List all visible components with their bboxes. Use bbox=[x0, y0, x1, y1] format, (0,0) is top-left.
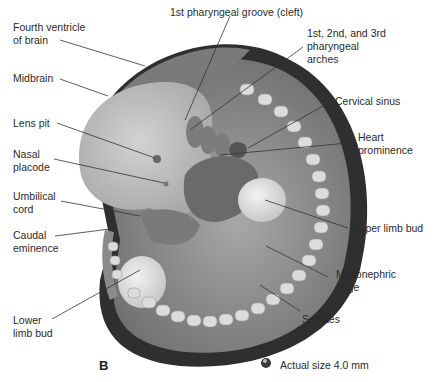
label-midbrain: Midbrain bbox=[13, 72, 53, 85]
actual-size-note: Actual size 4.0 mm bbox=[280, 359, 369, 371]
label-nasal-placode: Nasal placode bbox=[13, 148, 50, 174]
label-pharyngeal-arches: 1st, 2nd, and 3rd pharyngeal arches bbox=[307, 27, 386, 66]
actual-size-embryo-icon bbox=[261, 358, 271, 368]
label-mesonephric-ridge: Mesonephric ridge bbox=[336, 268, 396, 294]
label-lower-limb-bud: Lower limb bud bbox=[13, 314, 53, 340]
label-heart-prominence: Heart prominence bbox=[358, 131, 413, 157]
label-lens-pit: Lens pit bbox=[13, 117, 50, 130]
nasal-placode bbox=[164, 182, 169, 187]
embryo-figure: Fourth ventricle of brain Midbrain Lens … bbox=[0, 0, 435, 382]
lens-pit bbox=[153, 155, 161, 163]
label-pharyngeal-groove: 1st pharyngeal groove (cleft) bbox=[170, 6, 303, 19]
label-fourth-ventricle: Fourth ventricle of brain bbox=[13, 21, 85, 47]
label-cervical-sinus: Cervical sinus bbox=[335, 95, 400, 108]
label-upper-limb-bud: Upper limb bud bbox=[352, 222, 423, 235]
label-caudal-eminence: Caudal eminence bbox=[13, 229, 59, 255]
label-somites: Somites bbox=[302, 313, 340, 326]
upper-limb-bud bbox=[238, 178, 286, 222]
label-umbilical-cord: Umbilical cord bbox=[13, 190, 56, 216]
panel-label: B bbox=[99, 358, 108, 373]
